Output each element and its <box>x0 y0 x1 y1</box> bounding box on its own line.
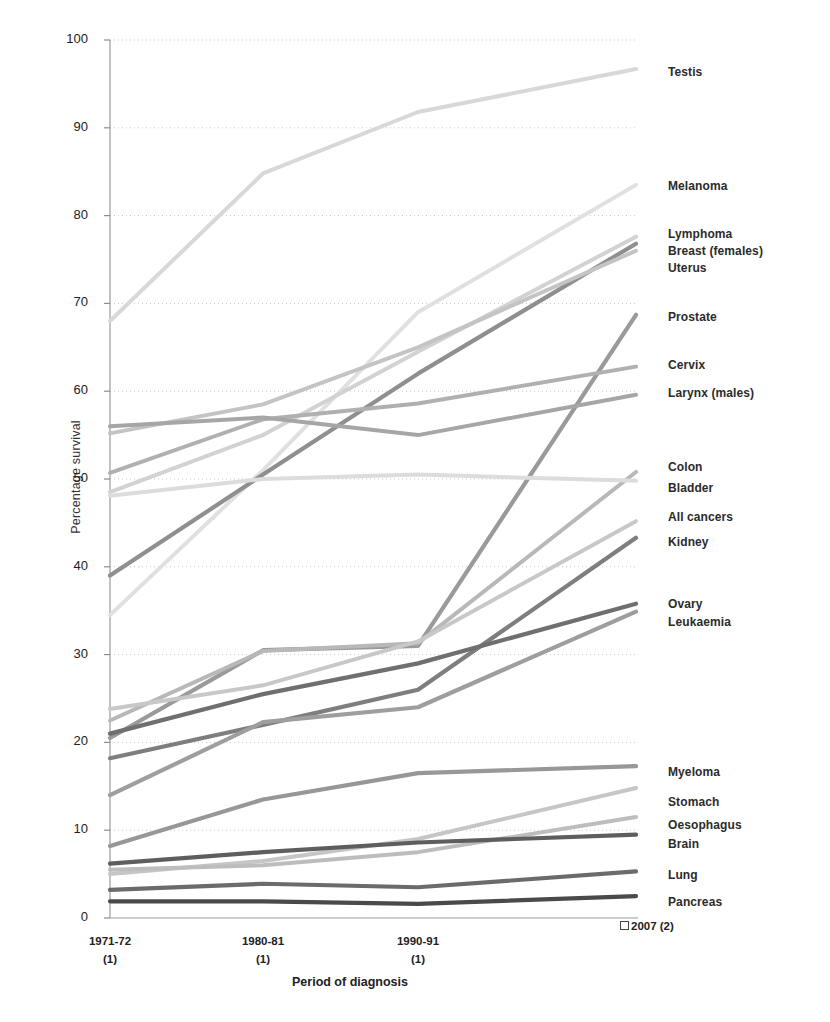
series-label-larynx-males: Larynx (males) <box>668 386 754 400</box>
series-label-testis: Testis <box>668 65 702 79</box>
series-line-colon <box>110 472 636 720</box>
series-label-leukaemia: Leukaemia <box>668 615 731 629</box>
y-tick-label-80: 80 <box>40 207 88 222</box>
series-label-breast-females: Breast (females) <box>668 244 763 258</box>
series-line-testis <box>110 69 636 321</box>
x-tick-label-3: 2007 (2) <box>620 920 674 932</box>
series-label-lung: Lung <box>668 868 698 882</box>
series-label-pancreas: Pancreas <box>668 895 722 909</box>
y-tick-label-30: 30 <box>40 646 88 661</box>
y-tick-label-20: 20 <box>40 733 88 748</box>
series-label-cervix: Cervix <box>668 358 705 372</box>
square-marker-icon <box>620 921 629 930</box>
series-line-ovary <box>110 604 636 734</box>
series-label-oesophagus: Oesophagus <box>668 818 742 832</box>
x-tick-label-2: 1990-91(1) <box>363 932 473 968</box>
series-label-colon: Colon <box>668 460 703 474</box>
series-line-brain <box>110 835 636 864</box>
series-label-myeloma: Myeloma <box>668 765 720 779</box>
y-tick-label-70: 70 <box>40 294 88 309</box>
series-label-all-cancers: All cancers <box>668 510 733 524</box>
series-label-uterus: Uterus <box>668 261 707 275</box>
x-tick-label-0: 1971-72(1) <box>55 932 165 968</box>
series-label-kidney: Kidney <box>668 535 709 549</box>
series-line-pancreas <box>110 896 636 904</box>
x-tick-period: 1980-81 <box>208 932 318 950</box>
y-tick-label-90: 90 <box>40 119 88 134</box>
series-label-ovary: Ovary <box>668 597 703 611</box>
y-tick-label-40: 40 <box>40 558 88 573</box>
x-axis-title: Period of diagnosis <box>0 975 700 989</box>
series-label-lymphoma: Lymphoma <box>668 227 732 241</box>
x-tick-footnote: (1) <box>55 950 165 968</box>
x-tick-period: 2007 (2) <box>631 920 674 932</box>
y-tick-label-60: 60 <box>40 382 88 397</box>
x-tick-label-1: 1980-81(1) <box>208 932 318 968</box>
series-label-stomach: Stomach <box>668 795 719 809</box>
series-label-prostate: Prostate <box>668 310 717 324</box>
series-label-brain: Brain <box>668 837 699 851</box>
series-line-bladder <box>110 475 636 496</box>
y-tick-label-50: 50 <box>40 470 88 485</box>
series-line-melanoma <box>110 185 636 615</box>
x-tick-footnote: (1) <box>363 950 473 968</box>
series-label-melanoma: Melanoma <box>668 179 727 193</box>
series-label-bladder: Bladder <box>668 481 713 495</box>
x-tick-period: 1990-91 <box>363 932 473 950</box>
series-line-lung <box>110 871 636 889</box>
y-tick-label-100: 100 <box>40 31 88 46</box>
x-tick-period: 1971-72 <box>55 932 165 950</box>
chart-figure: Percentage survival Period of diagnosis … <box>0 0 830 1022</box>
series-line-all-cancers <box>110 521 636 709</box>
y-tick-label-10: 10 <box>40 821 88 836</box>
x-tick-footnote: (1) <box>208 950 318 968</box>
y-tick-label-0: 0 <box>40 909 88 924</box>
